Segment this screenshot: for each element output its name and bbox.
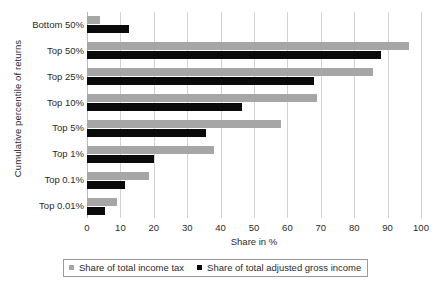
x-axis-title: Share in % [87, 236, 421, 247]
category-label: Top 5% [0, 122, 84, 133]
category-label: Bottom 50% [0, 19, 84, 30]
category-label: Top 25% [0, 71, 84, 82]
bar-income-tax [87, 94, 317, 102]
x-axis-line [87, 218, 421, 219]
bar-income-tax [87, 146, 214, 154]
bar-income-tax [87, 16, 100, 24]
bar-adjusted-gross-income [87, 155, 154, 163]
bar-group [87, 90, 421, 116]
legend-item-adjusted-gross-income: Share of total adjusted gross income [197, 262, 361, 273]
bar-income-tax [87, 68, 373, 76]
bar-income-tax [87, 120, 281, 128]
bar-group [87, 64, 421, 90]
bar-income-tax [87, 198, 117, 206]
bar-group [87, 193, 421, 219]
legend-swatch-icon-income-tax [69, 265, 74, 270]
category-label: Top 0.01% [0, 200, 84, 211]
legend-item-income-tax: Share of total income tax [69, 262, 184, 273]
bar-adjusted-gross-income [87, 25, 129, 33]
bar-adjusted-gross-income [87, 103, 242, 111]
category-label: Top 1% [0, 148, 84, 159]
plot-area [87, 12, 421, 219]
bar-group [87, 116, 421, 142]
bar-adjusted-gross-income [87, 51, 381, 59]
legend-label-income-tax: Share of total income tax [79, 262, 184, 273]
bar-group [87, 38, 421, 64]
bar-adjusted-gross-income [87, 207, 105, 215]
category-label: Top 10% [0, 97, 84, 108]
bar-adjusted-gross-income [87, 77, 314, 85]
legend-swatch-icon-adjusted-gross-income [197, 265, 202, 270]
bar-income-tax [87, 42, 409, 50]
bar-adjusted-gross-income [87, 129, 206, 137]
category-label: Top 0.1% [0, 174, 84, 185]
category-label: Top 50% [0, 45, 84, 56]
bar-income-tax [87, 172, 149, 180]
gridline [421, 12, 422, 219]
bar-group [87, 141, 421, 167]
bar-chart: Cumulative percentile of returns Bottom … [0, 0, 440, 292]
x-tick-label: 100 [401, 222, 440, 233]
bar-adjusted-gross-income [87, 181, 125, 189]
chart-legend: Share of total income tax Share of total… [63, 259, 368, 277]
bar-group [87, 167, 421, 193]
bar-group [87, 12, 421, 38]
legend-label-adjusted-gross-income: Share of total adjusted gross income [207, 262, 361, 273]
